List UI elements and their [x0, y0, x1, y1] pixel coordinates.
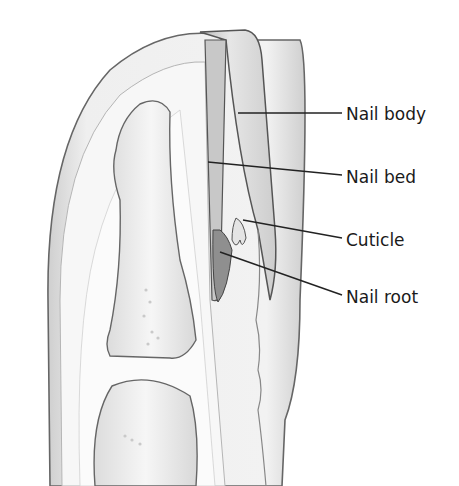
- label-cuticle: Cuticle: [346, 230, 405, 250]
- label-nail-root: Nail root: [346, 287, 418, 307]
- label-nail-bed: Nail bed: [346, 167, 416, 187]
- middle-phalanx: [94, 380, 197, 486]
- label-nail-body: Nail body: [346, 104, 426, 124]
